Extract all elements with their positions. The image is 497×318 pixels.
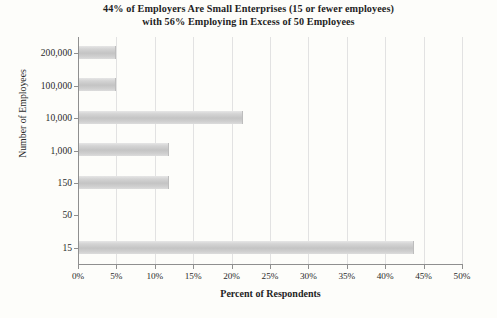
bar-200000 [78,46,116,59]
x-tick-mark [232,264,233,269]
bar-row [78,37,462,69]
y-tick-label-10000: 10,000 [8,112,72,123]
x-tick-label-25%: 25% [250,271,290,281]
y-axis-tick-labels: 200,000100,00010,0001,0001505015 [6,37,72,264]
x-tick-label-35%: 35% [327,271,367,281]
x-tick-label-5%: 5% [96,271,136,281]
y-tick-mark [74,215,79,216]
x-tick-label-15%: 15% [173,271,213,281]
chart-title: 44% of Employers Are Small Enterprises (… [0,2,497,28]
x-tick-mark [270,264,271,269]
bar-row [78,102,462,134]
x-tick-mark [424,264,425,269]
y-tick-mark [74,53,79,54]
bar-1000 [78,143,169,156]
plot-area [78,37,462,264]
x-tick-label-45%: 45% [404,271,444,281]
bar-row [78,134,462,166]
y-tick-label-1000: 1,000 [8,145,72,156]
bar-10000 [78,111,243,124]
bar-chart-figure: 44% of Employers Are Small Enterprises (… [0,0,497,318]
x-tick-mark [462,264,463,269]
bar-row [78,167,462,199]
chart-title-line-1: 44% of Employers Are Small Enterprises (… [0,2,497,15]
y-tick-mark [74,248,79,249]
y-tick-mark [74,151,79,152]
x-tick-mark [78,264,79,269]
y-tick-label-150: 150 [8,177,72,188]
x-axis-title: Percent of Respondents [78,288,463,299]
bar-100000 [78,78,116,91]
bar-row [78,69,462,101]
y-tick-mark [74,183,79,184]
y-tick-mark [74,118,79,119]
bar-15 [78,241,414,254]
x-tick-label-10%: 10% [135,271,175,281]
gridline-50% [462,37,463,264]
x-tick-label-0%: 0% [58,271,98,281]
y-tick-mark [74,86,79,87]
x-tick-mark [155,264,156,269]
x-tick-mark [116,264,117,269]
bar-150 [78,176,169,189]
x-tick-label-30%: 30% [288,271,328,281]
y-tick-label-15: 15 [8,242,72,253]
x-tick-mark [308,264,309,269]
x-tick-label-40%: 40% [365,271,405,281]
x-tick-mark [385,264,386,269]
y-tick-label-200000: 200,000 [8,47,72,58]
bar-row [78,199,462,231]
x-tick-label-20%: 20% [212,271,252,281]
x-tick-mark [193,264,194,269]
x-tick-label-50%: 50% [442,271,482,281]
chart-title-line-2: with 56% Employing in Excess of 50 Emplo… [0,15,497,28]
y-tick-label-50: 50 [8,209,72,220]
bar-row [78,232,462,264]
x-tick-mark [347,264,348,269]
y-tick-label-100000: 100,000 [8,80,72,91]
